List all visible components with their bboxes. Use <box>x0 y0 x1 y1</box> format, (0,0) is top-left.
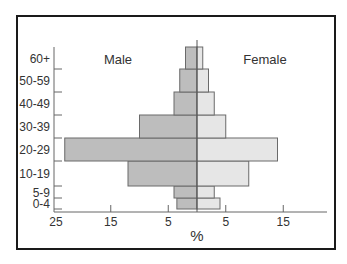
bar-male-30-39 <box>140 115 198 138</box>
x-tick-label-right-15: 15 <box>277 215 291 229</box>
bar-female-0-4 <box>197 198 220 209</box>
y-label-30-39: 30-39 <box>19 120 50 134</box>
bar-female-10-19 <box>197 161 249 186</box>
x-tick-label-left-25: 25 <box>49 215 63 229</box>
bar-female-20-29 <box>197 138 278 161</box>
bar-male-50-59 <box>180 69 197 92</box>
bar-male-60+ <box>186 47 198 69</box>
y-label-50-59: 50-59 <box>19 74 50 88</box>
legend-male-label: Male <box>104 52 132 67</box>
x-tick-label-left-5: 5 <box>165 215 172 229</box>
y-label-20-29: 20-29 <box>19 143 50 157</box>
bar-female-5-9 <box>197 186 214 198</box>
bar-male-40-49 <box>174 92 197 115</box>
y-axis-labels: 0-45-910-1920-2930-3940-4950-5960+ <box>19 52 50 212</box>
x-axis-title: % <box>190 227 203 244</box>
bar-male-20-29 <box>65 138 197 161</box>
bar-female-40-49 <box>197 92 214 115</box>
x-tick-label-left-15: 15 <box>104 215 118 229</box>
y-label-60+: 60+ <box>30 52 50 66</box>
bar-male-5-9 <box>174 186 197 198</box>
x-tick-label-right-5: 5 <box>222 215 229 229</box>
bar-male-10-19 <box>128 161 197 186</box>
y-label-5-9: 5-9 <box>33 186 51 200</box>
legend-female-label: Female <box>243 52 286 67</box>
bar-female-60+ <box>197 47 203 69</box>
bar-female-30-39 <box>197 115 226 138</box>
population-pyramid-chart: 0-45-910-1920-2930-3940-4950-5960+ 25155… <box>0 0 347 264</box>
bars-group <box>65 47 278 209</box>
bar-male-0-4 <box>177 198 197 209</box>
x-axis-labels: 25155515 <box>49 215 290 229</box>
y-label-10-19: 10-19 <box>19 167 50 181</box>
y-label-40-49: 40-49 <box>19 97 50 111</box>
bar-female-50-59 <box>197 69 209 92</box>
